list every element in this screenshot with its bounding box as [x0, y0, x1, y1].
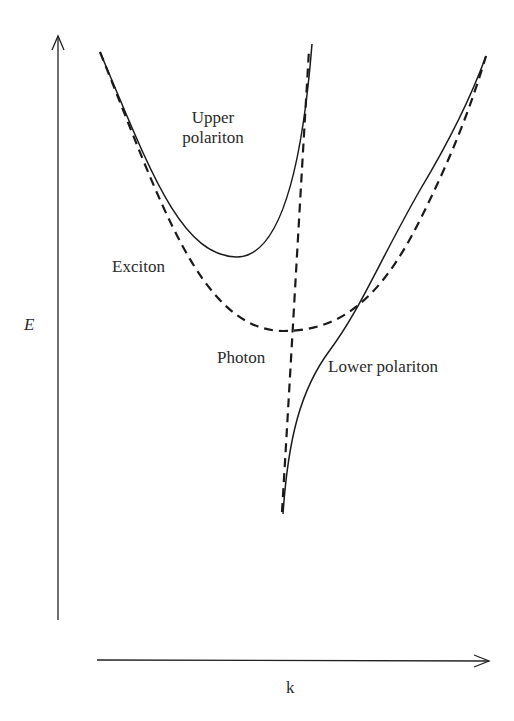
lower-polariton-label: Lower polariton: [328, 357, 438, 377]
x-axis: [97, 655, 489, 667]
upper-polariton-label-line2: polariton: [168, 128, 258, 148]
lower-polariton-curve: [283, 56, 486, 514]
y-axis: [52, 36, 64, 620]
exciton-label: Exciton: [112, 257, 165, 277]
exciton-curve: [100, 52, 486, 331]
upper-polariton-label: Upper polariton: [168, 108, 258, 148]
photon-label: Photon: [217, 348, 265, 368]
upper-polariton-label-line1: Upper: [168, 108, 258, 128]
x-axis-label: k: [286, 678, 295, 698]
photon-curve: [282, 50, 309, 512]
upper-polariton-curve: [100, 44, 312, 257]
y-axis-label: E: [24, 315, 34, 335]
